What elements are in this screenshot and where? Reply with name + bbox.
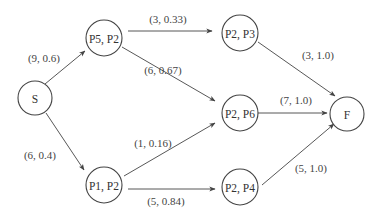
edge-label-p5p2-p2p3: (3, 0.33) [149, 13, 187, 26]
arrow-icon [262, 124, 334, 185]
arrow-icon [46, 113, 84, 170]
edge-label-p2p4-f: (5, 1.0) [295, 162, 327, 175]
edge-label-p2p6-f: (7, 1.0) [280, 94, 312, 107]
node-s: S [18, 81, 52, 115]
node-label-f: F [344, 109, 350, 121]
edge-p1p2-to-p2p6 [124, 123, 215, 176]
edge-label-p2p3-f: (3, 1.0) [302, 49, 334, 62]
node-label-p2-p6: P2, P6 [225, 108, 255, 121]
node-p2-p3: P2, P3 [222, 15, 258, 51]
edge-label-p1p2-p2p6: (1, 0.16) [134, 137, 172, 150]
node-label-p5-p2: P5, P2 [89, 33, 119, 46]
edge-label-p5p2-p2p6: (6, 0.67) [144, 64, 182, 77]
node-p1-p2: P1, P2 [86, 167, 122, 203]
state-transition-diagram: (9, 0.6) (6, 0.4) (3, 0.33) (6, 0.67) (1… [0, 0, 383, 218]
edge-label-s-p1p2: (6, 0.4) [24, 149, 56, 162]
node-label-p2-p3: P2, P3 [225, 28, 255, 41]
edge-p2p4-to-f [262, 124, 334, 185]
node-p5-p2: P5, P2 [86, 20, 122, 56]
node-label-s: S [32, 93, 38, 105]
node-f: F [330, 97, 364, 131]
node-p2-p4: P2, P4 [222, 169, 258, 205]
edge-s-to-p1p2 [46, 113, 84, 170]
edge-label-p1p2-p2p4: (5, 0.84) [147, 195, 185, 208]
node-p2-p6: P2, P6 [222, 95, 258, 131]
edge-label-s-p5p2: (9, 0.6) [28, 52, 60, 65]
node-label-p2-p4: P2, P4 [225, 182, 255, 195]
node-label-p1-p2: P1, P2 [89, 180, 119, 193]
arrow-icon [124, 123, 215, 176]
